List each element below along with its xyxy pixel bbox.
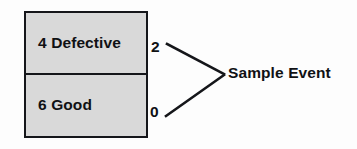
population-cell-defective: 4 Defective (26, 13, 146, 75)
sampling-diagram: 4 Defective 6 Good 2 0 Sample Event (0, 0, 357, 149)
connector-line-good (166, 75, 224, 116)
result-label: Sample Event (228, 64, 331, 82)
outcome-count-defective: 2 (151, 39, 160, 55)
connector-line-defective (167, 44, 224, 74)
population-cell-good: 6 Good (26, 75, 146, 137)
population-cell-defective-label: 4 Defective (26, 34, 121, 52)
population-cell-good-label: 6 Good (26, 96, 92, 114)
outcome-count-good: 0 (150, 104, 159, 120)
population-box: 4 Defective 6 Good (24, 11, 148, 138)
